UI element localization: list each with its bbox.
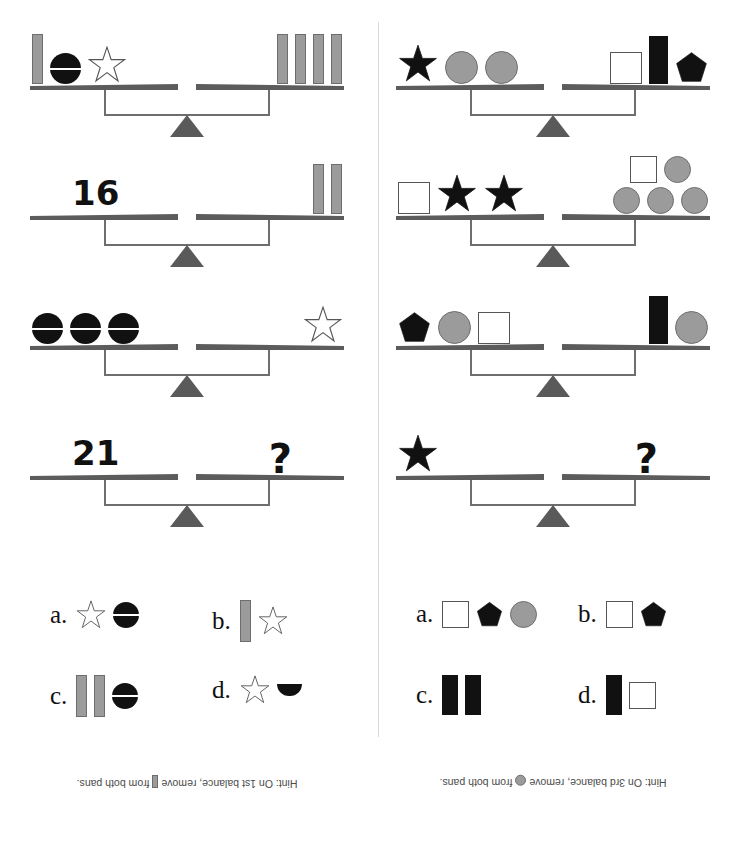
answer-choice-a[interactable]: a. bbox=[416, 600, 537, 628]
balance-stem-left bbox=[470, 90, 472, 116]
star-black-icon bbox=[484, 174, 524, 214]
split-black-circle-icon bbox=[32, 313, 63, 344]
white-square-icon bbox=[478, 312, 510, 344]
puzzle-panel-right: ?a.b.c.d.Hint: On 3rd balance, remove fr… bbox=[374, 0, 748, 842]
white-square-icon bbox=[442, 601, 469, 628]
choice-letter: a. bbox=[416, 600, 433, 628]
white-square-icon bbox=[629, 682, 656, 709]
pan-load-r bbox=[613, 156, 708, 214]
choice-letter: b. bbox=[578, 600, 597, 628]
balance-number-label: 21 bbox=[72, 433, 119, 473]
balance-pan-right bbox=[562, 84, 710, 90]
balance-stem-right bbox=[634, 90, 636, 116]
pan-load-r bbox=[610, 36, 708, 84]
pentagon-black-icon bbox=[675, 51, 708, 84]
choice-letter: c. bbox=[50, 682, 67, 710]
answer-choice-b[interactable]: b. bbox=[212, 600, 288, 642]
balance-fulcrum bbox=[170, 505, 204, 527]
balance-fulcrum bbox=[536, 505, 570, 527]
choice-shapes bbox=[240, 600, 288, 642]
choice-shapes bbox=[240, 675, 302, 705]
answer-choice-b[interactable]: b. bbox=[578, 600, 667, 628]
star-outline-icon bbox=[76, 600, 106, 630]
choice-shapes bbox=[606, 675, 656, 715]
balance-stem-right bbox=[268, 220, 270, 246]
pan-row bbox=[613, 187, 708, 214]
black-bar-icon bbox=[606, 675, 622, 715]
gray-circle-icon bbox=[647, 187, 674, 214]
unknown-question-mark: ? bbox=[635, 439, 658, 479]
hint-shape-icon bbox=[153, 775, 159, 790]
balance-stem-left bbox=[104, 220, 106, 246]
balance-scale-3 bbox=[388, 282, 718, 397]
white-square-icon bbox=[630, 156, 657, 183]
pentagon-black-icon bbox=[398, 311, 431, 344]
balance-stem-left bbox=[104, 90, 106, 116]
hint-suffix: from both pans. bbox=[77, 778, 150, 790]
pan-row bbox=[630, 156, 691, 183]
choice-shapes bbox=[76, 675, 138, 717]
balance-scale-1 bbox=[388, 22, 718, 137]
gray-circle-icon bbox=[445, 51, 478, 84]
balance-fulcrum bbox=[536, 245, 570, 267]
gray-bar-icon bbox=[32, 34, 43, 84]
balance-scale-3 bbox=[22, 282, 352, 397]
balance-stem-right bbox=[268, 480, 270, 506]
answer-choice-c[interactable]: c. bbox=[50, 675, 138, 717]
gray-bar-icon bbox=[331, 164, 342, 214]
balance-fulcrum bbox=[536, 115, 570, 137]
split-black-circle-icon bbox=[70, 313, 101, 344]
pan-load-l bbox=[398, 174, 524, 214]
gray-bar-icon bbox=[240, 600, 251, 642]
gray-circle-icon bbox=[613, 187, 640, 214]
black-half-circle-icon bbox=[277, 684, 302, 697]
choice-shapes bbox=[76, 600, 139, 630]
black-bar-icon bbox=[442, 675, 458, 715]
answer-choice-c[interactable]: c. bbox=[416, 675, 481, 715]
pan-load-l bbox=[32, 313, 139, 344]
answer-choice-a[interactable]: a. bbox=[50, 600, 139, 630]
answer-choice-d[interactable]: d. bbox=[212, 675, 302, 705]
answer-choice-d[interactable]: d. bbox=[578, 675, 656, 715]
gray-circle-icon bbox=[510, 601, 537, 628]
balance-stem-right bbox=[634, 350, 636, 376]
balance-fulcrum bbox=[170, 375, 204, 397]
gray-bar-icon bbox=[331, 34, 342, 84]
balance-scale-4: ? bbox=[388, 412, 718, 527]
choice-shapes bbox=[606, 601, 667, 628]
balance-pan-right bbox=[196, 344, 344, 350]
balance-stem-left bbox=[470, 220, 472, 246]
split-black-circle-icon bbox=[108, 313, 139, 344]
balance-fulcrum bbox=[170, 245, 204, 267]
pan-load-r bbox=[649, 296, 708, 344]
star-outline-icon bbox=[304, 306, 342, 344]
black-bar-icon bbox=[649, 36, 668, 84]
gray-bar-icon bbox=[313, 164, 324, 214]
pan-load-r bbox=[313, 164, 342, 214]
balance-fulcrum bbox=[170, 115, 204, 137]
balance-stem-left bbox=[104, 480, 106, 506]
balance-stem-left bbox=[470, 480, 472, 506]
black-bar-icon bbox=[649, 296, 668, 344]
pan-load-r bbox=[277, 34, 342, 84]
hint-suffix: from both pans. bbox=[440, 777, 513, 789]
pan-load-r bbox=[304, 306, 342, 344]
gray-bar-icon bbox=[277, 34, 288, 84]
black-bar-icon bbox=[465, 675, 481, 715]
pan-load-l bbox=[32, 34, 126, 84]
hint-prefix: Hint: On 3rd balance, remove bbox=[529, 777, 666, 789]
choice-shapes bbox=[442, 675, 481, 715]
gray-bar-icon bbox=[76, 675, 87, 717]
star-black-icon bbox=[398, 44, 438, 84]
white-square-icon bbox=[398, 182, 430, 214]
choice-shapes bbox=[442, 601, 537, 628]
choice-letter: c. bbox=[416, 681, 433, 709]
choice-letter: a. bbox=[50, 601, 67, 629]
balance-stem-right bbox=[634, 220, 636, 246]
hint-prefix: Hint: On 1st balance, remove bbox=[161, 778, 297, 790]
white-square-icon bbox=[606, 601, 633, 628]
balance-number-label: 16 bbox=[72, 173, 119, 213]
gray-circle-icon bbox=[438, 311, 471, 344]
star-black-icon bbox=[398, 434, 438, 474]
star-outline-icon bbox=[240, 675, 270, 705]
